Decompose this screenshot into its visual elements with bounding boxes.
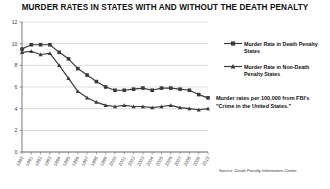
chart-container: MURDER RATES IN STATES WITH AND WITHOUT … (0, 0, 330, 189)
x-axis-tick-label: 2007 (173, 155, 182, 167)
y-axis-tick-label: 8 (15, 62, 18, 68)
data-point-death-penalty (113, 88, 117, 92)
data-point-death-penalty (48, 43, 52, 47)
x-axis-tick-label: 2002 (127, 155, 136, 167)
y-axis-tick-label: 12 (12, 19, 18, 25)
x-axis-tick-label: 1996 (71, 155, 80, 167)
data-point-death-penalty (160, 86, 164, 90)
data-point-death-penalty (123, 88, 127, 92)
legend-marker-death-penalty (231, 41, 235, 45)
data-point-death-penalty (132, 87, 136, 91)
data-point-death-penalty (39, 43, 43, 47)
y-axis-tick-label: 6 (15, 84, 18, 90)
x-axis-tick-label: 1992 (34, 155, 43, 167)
data-point-death-penalty (85, 73, 89, 77)
chart-annotation: Murder rates per 100,000 from FBI's "Cri… (216, 95, 328, 111)
data-point-death-penalty (150, 88, 154, 92)
x-axis-tick-label: 1994 (52, 155, 61, 167)
series-line-non-death-penalty (22, 51, 208, 110)
x-axis-tick-label: 1990 (15, 155, 24, 167)
y-axis-tick-label: 0 (15, 149, 18, 155)
x-axis-tick-label: 1991 (25, 155, 34, 167)
x-axis-tick-label: 2008 (183, 155, 192, 167)
data-point-death-penalty (95, 80, 99, 84)
x-axis-tick-label: 2010 (201, 155, 210, 167)
data-point-death-penalty (76, 67, 80, 71)
data-point-death-penalty (57, 51, 61, 55)
data-point-death-penalty (30, 43, 34, 47)
legend-label-death-penalty: Murder Rate in Death Penalty States (244, 41, 322, 55)
x-axis-tick-label: 1998 (90, 155, 99, 167)
x-axis-tick-label: 2004 (145, 155, 154, 167)
x-axis-tick-label: 1997 (80, 155, 89, 167)
y-axis-tick-label: 4 (15, 106, 18, 112)
x-axis-tick-label: 2001 (118, 155, 127, 167)
data-point-death-penalty (206, 96, 210, 100)
data-point-death-penalty (67, 57, 71, 61)
x-axis-tick-label: 2000 (108, 155, 117, 167)
x-axis-tick-label: 2006 (164, 155, 173, 167)
x-axis-tick-label: 1995 (62, 155, 71, 167)
data-point-death-penalty (197, 93, 201, 97)
y-axis-tick-label: 10 (12, 41, 18, 47)
x-axis-tick-label: 2009 (192, 155, 201, 167)
legend-label-non-death-penalty: Murder Rate in Non-Death Penalty States (244, 64, 322, 78)
data-point-death-penalty (104, 85, 108, 89)
chart-source-note: Source: Death Penalty Information Center (219, 168, 329, 173)
x-axis-tick-label: 2003 (136, 155, 145, 167)
x-axis-tick-label: 1999 (99, 155, 108, 167)
data-point-death-penalty (178, 87, 182, 91)
x-axis-tick-label: 1993 (43, 155, 52, 167)
data-point-death-penalty (169, 86, 173, 90)
data-point-death-penalty (188, 88, 192, 92)
data-point-death-penalty (141, 86, 145, 90)
y-axis-tick-label: 2 (15, 127, 18, 133)
x-axis-tick-label: 2005 (155, 155, 164, 167)
